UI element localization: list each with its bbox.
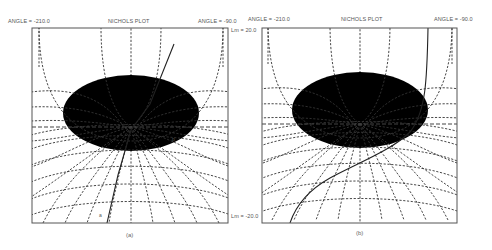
marker-p: p (172, 136, 175, 142)
nichols-plot-a: a p (31, 17, 231, 237)
nichols-plot-b (260, 14, 460, 234)
marker-a: a (99, 212, 102, 218)
nichols-charts: a p (0, 0, 492, 250)
